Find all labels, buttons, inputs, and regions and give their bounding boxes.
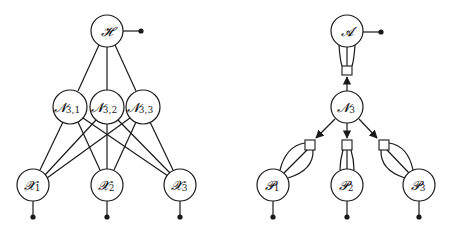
edge-factor-p3-inner bbox=[381, 150, 405, 178]
node-n31: 𝓝3,1 bbox=[53, 90, 87, 124]
output-terminal-dot bbox=[138, 28, 143, 33]
terminal-dot bbox=[270, 214, 275, 219]
edge-factor-p2-right bbox=[351, 150, 354, 170]
terminal-dot bbox=[177, 214, 182, 219]
node-x2: 𝓧2 bbox=[91, 169, 123, 201]
edge-factor-p1-inner bbox=[288, 150, 313, 178]
edge-n33-x3 bbox=[150, 122, 173, 170]
factor-square-p1 bbox=[305, 140, 315, 150]
node-p1: 𝓟1 bbox=[257, 169, 289, 201]
diagram-canvas: 𝓗 𝓝3,1 𝓝3,2 𝓝3,3 𝓧1 𝓧2 𝓧3 bbox=[0, 0, 454, 233]
edge-a-factor-right bbox=[352, 45, 355, 66]
edge-a-factor-left bbox=[339, 45, 342, 66]
node-h: 𝓗 bbox=[91, 15, 123, 47]
edge-n31-x3 bbox=[83, 118, 168, 176]
terminal-dot bbox=[30, 214, 35, 219]
arrow-n3-to-factor-p3 bbox=[359, 119, 377, 138]
edge-n33-x1 bbox=[47, 118, 130, 178]
terminal-dot bbox=[104, 214, 109, 219]
left-network-diagram: 𝓗 𝓝3,1 𝓝3,2 𝓝3,3 𝓧1 𝓧2 𝓧3 bbox=[17, 15, 196, 220]
edge-factor-p2-left bbox=[340, 150, 343, 170]
terminal-dot bbox=[344, 214, 349, 219]
factor-square-p3 bbox=[379, 140, 389, 150]
terminal-dot bbox=[416, 214, 421, 219]
node-p2: 𝓟2 bbox=[331, 169, 363, 201]
output-terminal-dot bbox=[378, 29, 383, 34]
node-n32: 𝓝3,2 bbox=[90, 90, 124, 124]
factor-square-p2 bbox=[342, 140, 352, 150]
right-factor-diagram: 𝓐 𝓝3 𝓟1 𝓟2 𝓟3 bbox=[257, 15, 435, 220]
node-x1: 𝓧1 bbox=[17, 169, 49, 201]
node-n3: 𝓝3 bbox=[331, 91, 363, 123]
node-p3: 𝓟3 bbox=[403, 169, 435, 201]
node-a: 𝓐 bbox=[331, 15, 363, 47]
edge-h-n31 bbox=[78, 45, 99, 91]
arrow-n3-to-factor-p1 bbox=[316, 119, 335, 138]
edge-n33-x2 bbox=[114, 122, 136, 170]
edge-n31-x2 bbox=[78, 122, 100, 170]
factor-square-a bbox=[342, 66, 352, 75]
edge-n31-x1 bbox=[40, 122, 63, 170]
node-n33: 𝓝3,3 bbox=[126, 90, 160, 124]
node-x3: 𝓧3 bbox=[164, 169, 196, 201]
edge-h-n33 bbox=[115, 45, 136, 91]
